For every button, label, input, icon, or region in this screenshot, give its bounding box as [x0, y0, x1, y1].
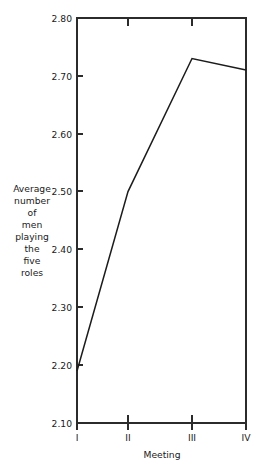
line-chart: 2.80 2.70 2.60 2.50 2.40 2.30 2.20 2.10 … — [0, 0, 263, 463]
y-axis-title-line: five — [24, 255, 41, 266]
y-tick-label: 2.70 — [52, 71, 73, 82]
y-tick-label: 2.20 — [52, 360, 73, 371]
y-axis-title-line: playing — [15, 231, 49, 242]
y-tick-label: 2.80 — [52, 13, 73, 24]
y-axis-title-line: of — [28, 207, 38, 218]
x-axis-title: Meeting — [143, 449, 180, 460]
y-axis-title-line: the — [24, 243, 39, 254]
y-tick-label: 2.60 — [52, 129, 73, 140]
y-tick-label: 2.10 — [52, 418, 73, 429]
y-axis-title-line: roles — [21, 267, 43, 278]
y-axis-title-line: Average — [13, 183, 51, 194]
x-tick-label: IV — [242, 432, 252, 443]
x-tick-label: II — [125, 432, 130, 443]
y-tick-label: 2.30 — [52, 302, 73, 313]
x-tick-label: III — [188, 432, 196, 443]
chart-canvas: 2.80 2.70 2.60 2.50 2.40 2.30 2.20 2.10 … — [0, 0, 263, 463]
y-tick-label: 2.50 — [52, 186, 73, 197]
y-tick-label: 2.40 — [52, 244, 73, 255]
y-axis-title-line: men — [22, 219, 43, 230]
x-tick-label: I — [76, 432, 79, 443]
y-axis-title-line: number — [14, 195, 50, 206]
